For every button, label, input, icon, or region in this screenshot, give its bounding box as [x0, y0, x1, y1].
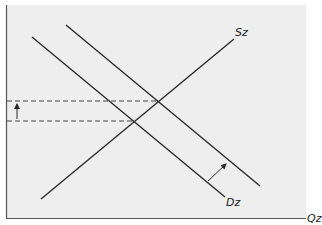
supply-label: Sz	[235, 26, 248, 39]
supply-demand-diagram: Sz Dz Qz	[0, 0, 322, 225]
plot-background	[6, 5, 306, 218]
x-axis-label: Qz	[307, 212, 322, 225]
demand-label: Dz	[226, 196, 240, 209]
